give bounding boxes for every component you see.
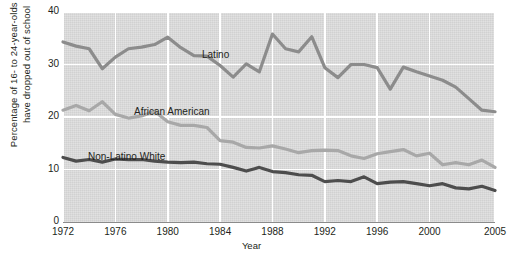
x-tick-label-1980: 1980 bbox=[146, 226, 190, 237]
series-line-latino bbox=[63, 34, 495, 112]
x-axis-line bbox=[63, 222, 495, 223]
series-line-non-latino-white bbox=[63, 157, 495, 190]
x-tick-label-2000: 2000 bbox=[408, 226, 452, 237]
series-lines bbox=[63, 12, 495, 222]
y-axis-title-line-2: have dropped out of school bbox=[20, 0, 33, 169]
y-tick-label-10: 10 bbox=[33, 163, 59, 174]
x-tick-label-1972: 1972 bbox=[41, 226, 85, 237]
x-tick-label-1984: 1984 bbox=[198, 226, 242, 237]
x-tick-label-1988: 1988 bbox=[250, 226, 294, 237]
y-tick-label-20: 20 bbox=[33, 110, 59, 121]
series-label-latino: Latino bbox=[202, 49, 229, 60]
y-axis-title-line-1: Percentage of 16- to 24-year-olds who bbox=[8, 0, 21, 169]
x-tick-label-2005: 2005 bbox=[473, 226, 511, 237]
x-tick-label-1992: 1992 bbox=[303, 226, 347, 237]
x-axis-title: Year bbox=[0, 240, 503, 251]
y-tick-label-0: 0 bbox=[33, 215, 59, 226]
x-tick-label-1996: 1996 bbox=[355, 226, 399, 237]
y-tick-label-40: 40 bbox=[33, 5, 59, 16]
x-tick-label-1976: 1976 bbox=[93, 226, 137, 237]
y-tick-label-30: 30 bbox=[33, 58, 59, 69]
series-label-non-latino-white: Non-Latino White bbox=[88, 151, 165, 162]
y-axis-title: Percentage of 16- to 24-year-olds who ha… bbox=[8, 0, 33, 169]
series-label-african-american: African American bbox=[134, 106, 210, 117]
plot-area bbox=[63, 12, 495, 222]
